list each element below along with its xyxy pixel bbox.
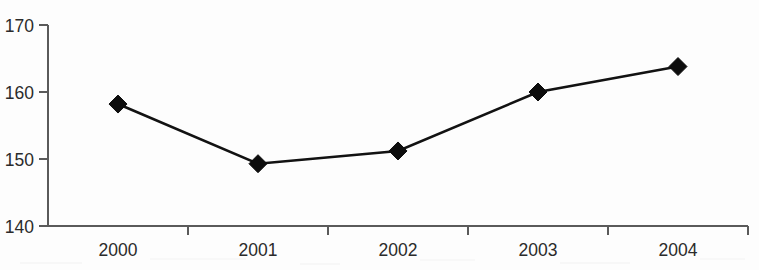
data-point-marker: [389, 142, 407, 160]
chart-canvas: 14015016017020002001200220032004: [0, 0, 759, 270]
line-chart: 14015016017020002001200220032004: [0, 0, 759, 270]
data-point-marker: [529, 83, 547, 101]
y-tick-label: 150: [5, 150, 34, 170]
y-tick-label: 170: [5, 16, 34, 36]
data-point-marker: [249, 155, 267, 173]
data-point-marker: [669, 58, 687, 76]
y-tick-label: 160: [5, 83, 34, 103]
y-tick-label: 140: [5, 217, 34, 237]
x-tick-label: 2001: [239, 240, 278, 260]
data-point-marker: [109, 95, 127, 113]
x-tick-label: 2003: [519, 240, 558, 260]
x-tick-label: 2004: [659, 240, 698, 260]
x-tick-label: 2000: [99, 240, 138, 260]
x-tick-label: 2002: [379, 240, 418, 260]
